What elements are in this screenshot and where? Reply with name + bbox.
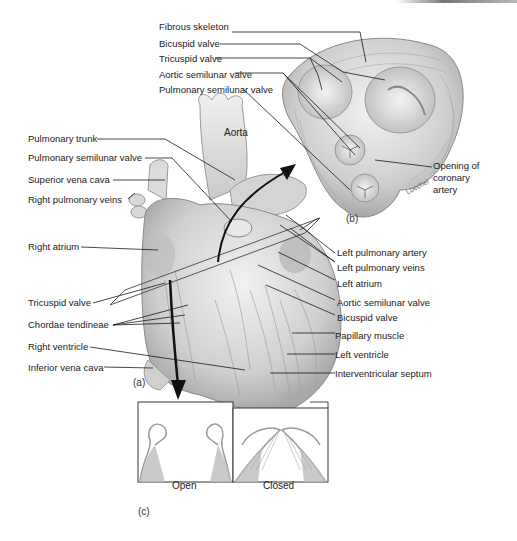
valve-open-closed-insets xyxy=(138,402,328,482)
label-tricuspid-valve-a: Tricuspid valve xyxy=(28,297,91,308)
label-open: Open xyxy=(172,480,196,491)
label-aortic-semilunar-valve-b: Aortic semilunar valve xyxy=(159,69,252,80)
label-bicuspid-valve-b: Bicuspid valve xyxy=(159,38,220,49)
panel-label-b: (b) xyxy=(346,213,358,224)
label-tricuspid-valve-b: Tricuspid valve xyxy=(159,53,222,64)
label-left-pulmonary-veins: Left pulmonary veins xyxy=(337,262,425,273)
label-superior-vena-cava: Superior vena cava xyxy=(28,174,110,185)
label-aortic-semilunar-valve-a: Aortic semilunar valve xyxy=(337,297,430,308)
panel-label-a: (a) xyxy=(133,377,145,388)
label-interventricular-septum: Interventricular septum xyxy=(335,368,432,379)
label-inferior-vena-cava: Inferior vena cava xyxy=(28,362,104,373)
label-right-atrium: Right atrium xyxy=(28,241,79,252)
label-opening-coronary-3: artery xyxy=(433,184,457,195)
label-chordae-tendineae: Chordae tendineae xyxy=(28,319,109,330)
label-left-pulmonary-artery: Left pulmonary artery xyxy=(337,247,427,258)
label-closed: Closed xyxy=(263,480,294,491)
label-right-pulmonary-veins: Right pulmonary veins xyxy=(28,194,122,205)
label-left-ventricle: Left ventricle xyxy=(335,349,389,360)
label-opening-coronary-1: Opening of xyxy=(433,160,479,171)
label-pulmonary-semilunar-valve-b: Pulmonary semilunar valve xyxy=(159,84,273,95)
label-pulmonary-trunk: Pulmonary trunk xyxy=(28,133,97,144)
heart-illustration xyxy=(0,0,517,541)
label-aorta: Aorta xyxy=(224,127,248,138)
label-fibrous-skeleton: Fibrous skeleton xyxy=(159,21,229,32)
label-bicuspid-valve-a: Bicuspid valve xyxy=(337,312,398,323)
label-pulmonary-semilunar-valve-a: Pulmonary semilunar valve xyxy=(28,152,142,163)
label-papillary-muscle: Papillary muscle xyxy=(335,330,404,341)
label-left-atrium: Left atrium xyxy=(337,278,382,289)
panel-label-c: (c) xyxy=(138,506,150,517)
label-right-ventricle: Right ventricle xyxy=(28,341,88,352)
label-opening-coronary-2: coronary xyxy=(433,172,470,183)
